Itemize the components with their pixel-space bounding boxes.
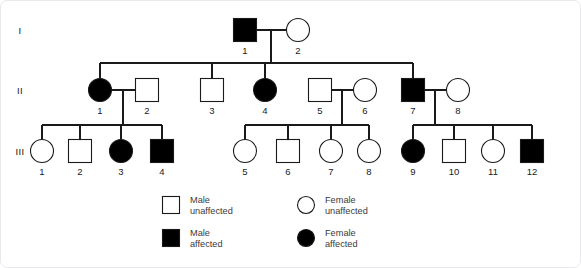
female-unaffected-symbol[interactable] <box>354 79 377 102</box>
individual-number-label: 10 <box>449 166 460 177</box>
legend-label-line1: Female <box>325 195 356 205</box>
male-affected-symbol[interactable] <box>402 79 425 102</box>
male-unaffected-symbol[interactable] <box>443 140 466 163</box>
individual-number-label: 4 <box>262 105 267 116</box>
male-affected-symbol[interactable] <box>234 19 257 42</box>
individual-ii-7[interactable]: 7 <box>402 79 425 117</box>
legend-label-line1: Male <box>190 195 210 205</box>
female-affected-symbol[interactable] <box>254 79 277 102</box>
generation-label-II: II <box>17 85 23 96</box>
individuals-layer: 1212345678123456789101112 <box>31 19 544 178</box>
female-unaffected-symbol[interactable] <box>447 79 470 102</box>
legend-label-line2: unaffected <box>190 206 233 216</box>
male-unaffected-symbol[interactable] <box>309 79 332 102</box>
male-affected-symbol[interactable] <box>151 140 174 163</box>
individual-number-label: 5 <box>317 105 322 116</box>
female-affected-symbol[interactable] <box>110 140 133 163</box>
individual-number-label: 6 <box>285 166 290 177</box>
individual-iii-3[interactable]: 3 <box>110 140 133 178</box>
individual-ii-3[interactable]: 3 <box>201 79 224 117</box>
individual-number-label: 1 <box>242 45 247 56</box>
individual-number-label: 8 <box>455 105 460 116</box>
female-unaffected-symbol[interactable] <box>358 140 381 163</box>
individual-ii-6[interactable]: 6 <box>354 79 377 117</box>
legend-female-unaffected: Femaleunaffected <box>298 195 368 216</box>
individual-iii-4[interactable]: 4 <box>151 140 174 178</box>
individual-number-label: 9 <box>410 166 415 177</box>
generation-labels: I II III <box>15 25 24 157</box>
male-unaffected-symbol[interactable] <box>136 79 159 102</box>
legend-female-affected: Femaleaffected <box>298 228 358 249</box>
male-unaffected-symbol[interactable] <box>69 140 92 163</box>
individual-number-label: 2 <box>144 105 149 116</box>
individual-number-label: 2 <box>295 45 300 56</box>
legend-label-line1: Male <box>190 228 210 238</box>
male-affected-legend-symbol <box>163 230 180 247</box>
individual-number-label: 6 <box>362 105 367 116</box>
individual-ii-4[interactable]: 4 <box>254 79 277 117</box>
individual-iii-5[interactable]: 5 <box>234 140 257 178</box>
individual-number-label: 5 <box>242 166 247 177</box>
male-affected-symbol[interactable] <box>521 140 544 163</box>
individual-number-label: 4 <box>159 166 164 177</box>
pedigree-diagram: I II III 1212345678123456789101112 Maleu… <box>1 1 581 268</box>
individual-iii-9[interactable]: 9 <box>402 140 425 178</box>
female-affected-legend-symbol <box>298 230 315 247</box>
individual-iii-11[interactable]: 11 <box>482 140 505 178</box>
female-affected-symbol[interactable] <box>402 140 425 163</box>
male-unaffected-legend-symbol <box>163 197 180 214</box>
individual-number-label: 8 <box>366 166 371 177</box>
individual-number-label: 2 <box>77 166 82 177</box>
legend-label-line2: unaffected <box>325 206 368 216</box>
individual-number-label: 1 <box>97 105 102 116</box>
individual-iii-6[interactable]: 6 <box>277 140 300 178</box>
individual-number-label: 3 <box>118 166 123 177</box>
individual-ii-1[interactable]: 1 <box>89 79 112 117</box>
individual-i-2[interactable]: 2 <box>287 19 310 57</box>
individual-iii-10[interactable]: 10 <box>443 140 466 178</box>
legend-label-line2: affected <box>190 239 223 249</box>
individual-ii-8[interactable]: 8 <box>447 79 470 117</box>
legend-male-affected: Maleaffected <box>163 228 223 249</box>
individual-ii-2[interactable]: 2 <box>136 79 159 117</box>
individual-number-label: 7 <box>410 105 415 116</box>
male-unaffected-symbol[interactable] <box>277 140 300 163</box>
female-unaffected-symbol[interactable] <box>482 140 505 163</box>
male-unaffected-symbol[interactable] <box>201 79 224 102</box>
individual-number-label: 12 <box>527 166 538 177</box>
female-unaffected-symbol[interactable] <box>31 140 54 163</box>
individual-i-1[interactable]: 1 <box>234 19 257 57</box>
legend-label-line2: affected <box>325 239 358 249</box>
individual-iii-12[interactable]: 12 <box>521 140 544 178</box>
legend-label-line1: Female <box>325 228 356 238</box>
generation-label-III: III <box>15 146 24 157</box>
female-unaffected-symbol[interactable] <box>234 140 257 163</box>
female-affected-symbol[interactable] <box>89 79 112 102</box>
female-unaffected-legend-symbol <box>298 197 315 214</box>
individual-iii-1[interactable]: 1 <box>31 140 54 178</box>
individual-number-label: 11 <box>488 166 498 177</box>
individual-number-label: 7 <box>328 166 333 177</box>
individual-iii-2[interactable]: 2 <box>69 140 92 178</box>
female-unaffected-symbol[interactable] <box>320 140 343 163</box>
individual-iii-7[interactable]: 7 <box>320 140 343 178</box>
female-unaffected-symbol[interactable] <box>287 19 310 42</box>
legend: MaleunaffectedMaleaffectedFemaleunaffect… <box>163 195 368 249</box>
individual-number-label: 3 <box>209 105 214 116</box>
legend-male-unaffected: Maleunaffected <box>163 195 233 216</box>
individual-ii-5[interactable]: 5 <box>309 79 332 117</box>
pedigree-figure: I II III 1212345678123456789101112 Maleu… <box>0 0 581 268</box>
individual-iii-8[interactable]: 8 <box>358 140 381 178</box>
individual-number-label: 1 <box>39 166 44 177</box>
generation-label-I: I <box>18 25 21 36</box>
